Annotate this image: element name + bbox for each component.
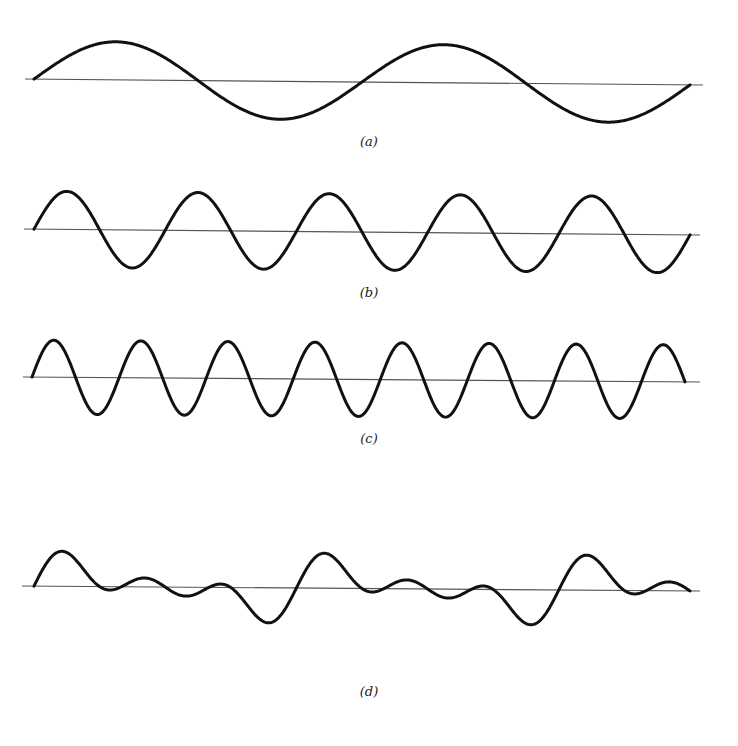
panel-label-a: (a) (360, 134, 378, 149)
waveform-canvas (0, 0, 738, 746)
waveform-b (34, 191, 690, 272)
panel-label-c: (c) (360, 431, 377, 446)
waveform-d (34, 551, 690, 624)
waveform-figure: (a) (b) (c) (d) (0, 0, 738, 746)
panel-label-b: (b) (360, 285, 378, 300)
panel-label-d: (d) (360, 684, 378, 699)
waveform-a (34, 42, 690, 122)
